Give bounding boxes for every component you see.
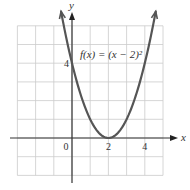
y-axis-label: y [68,0,74,11]
parabola-chart: x y f(x) = (x − 2)² 0244 [0,0,190,190]
y-axis-arrow-icon [69,12,75,20]
x-tick-label: 4 [142,141,147,152]
function-label: f(x) = (x − 2)² [80,48,143,61]
x-tick-label: 0 [64,141,69,152]
x-axis-label: x [180,131,186,143]
x-axis-arrow-icon [170,135,178,141]
x-tick-label: 2 [106,141,111,152]
y-tick-label: 4 [64,58,69,69]
